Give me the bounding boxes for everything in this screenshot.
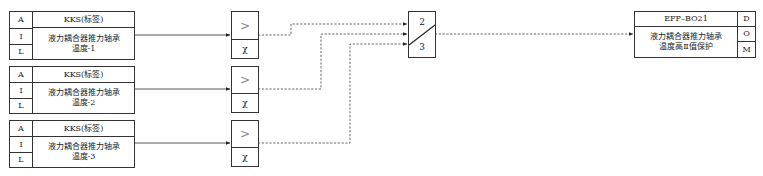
threshold-param: χ <box>232 94 258 112</box>
input-description: 液力耦合器推力轴承 温度-3 <box>33 137 134 167</box>
threshold-param: χ <box>232 40 258 58</box>
input-tag: KKS(标签) <box>33 121 134 137</box>
greater-than-symbol: > <box>232 121 258 148</box>
output-d-label: D <box>738 12 755 27</box>
input-tag: KKS(标签) <box>33 67 134 83</box>
input-desc-line1: 液力耦合器推力轴承 <box>48 88 120 98</box>
comparator-block-1[interactable]: > χ <box>231 11 259 59</box>
output-tag: EFP–BO21 <box>635 12 738 27</box>
input-desc-line2: 温度-3 <box>72 152 96 162</box>
input-i-label: I <box>10 29 33 45</box>
input-desc-line1: 液力耦合器推力轴承 <box>48 34 120 44</box>
greater-than-symbol: > <box>232 12 258 40</box>
input-desc-line1: 液力耦合器推力轴承 <box>48 142 120 152</box>
input-tag: KKS(标签) <box>33 12 134 28</box>
input-description: 液力耦合器推力轴承 温度-2 <box>33 83 134 113</box>
input-i-label: I <box>10 137 33 153</box>
input-a-label: A <box>10 67 33 83</box>
output-desc-line1: 液力耦合器推力轴承 <box>650 32 722 42</box>
input-a-label: A <box>10 12 33 29</box>
wire-cmp2-selector <box>258 34 407 89</box>
input-a-label: A <box>10 121 33 137</box>
input-l-label: L <box>10 45 33 59</box>
input-desc-line2: 温度-2 <box>72 98 96 108</box>
wire-cmp3-selector <box>258 44 407 143</box>
input-block-1[interactable]: A I L KKS(标签) 液力耦合器推力轴承 温度-1 <box>9 11 135 60</box>
input-i-label: I <box>10 83 33 99</box>
greater-than-symbol: > <box>232 67 258 94</box>
wire-cmp1-selector <box>258 24 407 35</box>
output-o-label: O <box>738 27 755 42</box>
comparator-block-2[interactable]: > χ <box>231 66 259 113</box>
comparator-block-3[interactable]: > χ <box>231 120 259 167</box>
input-l-label: L <box>10 153 33 167</box>
input-block-2[interactable]: A I L KKS(标签) 液力耦合器推力轴承 温度-2 <box>9 66 135 114</box>
input-l-label: L <box>10 99 33 113</box>
two-of-three-selector[interactable]: 2 3 <box>408 11 436 58</box>
output-m-label: M <box>738 42 755 57</box>
output-desc-line2: 温度高Ⅱ值保护 <box>659 42 712 52</box>
input-desc-line2: 温度-1 <box>72 44 96 54</box>
input-block-3[interactable]: A I L KKS(标签) 液力耦合器推力轴承 温度-3 <box>9 120 135 168</box>
output-block[interactable]: EFP–BO21 液力耦合器推力轴承 温度高Ⅱ值保护 D O M <box>634 11 756 58</box>
output-description: 液力耦合器推力轴承 温度高Ⅱ值保护 <box>635 27 738 57</box>
threshold-param: χ <box>232 148 258 166</box>
input-description: 液力耦合器推力轴承 温度-1 <box>33 28 134 59</box>
selector-bottom-label: 3 <box>409 42 435 52</box>
